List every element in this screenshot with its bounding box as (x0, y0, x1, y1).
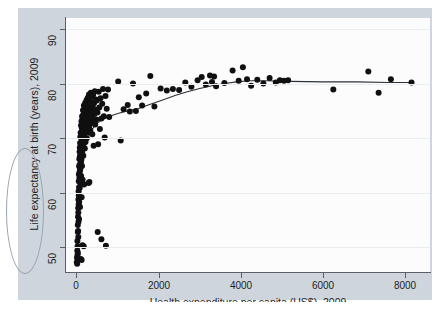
x-tick-label-0: 0 (51, 280, 101, 291)
y-tick-90 (60, 29, 65, 30)
scatter-point (211, 73, 217, 79)
scatter-point (267, 75, 273, 81)
scatter-point (104, 106, 110, 112)
x-tick-6000 (323, 273, 324, 278)
gridline-y-90 (66, 29, 430, 30)
scatter-point (170, 86, 176, 92)
x-tick-2000 (159, 273, 160, 278)
scatter-point (82, 146, 88, 152)
scatter-point (376, 90, 382, 96)
scatter-point (89, 131, 95, 137)
scatter-point (77, 204, 83, 210)
scatter-point (133, 108, 139, 114)
scatter-point (236, 78, 242, 84)
scatter-point (164, 88, 170, 94)
scatter-point (98, 236, 104, 242)
scatter-point (80, 153, 86, 159)
y-tick-label-60: 60 (47, 192, 58, 218)
scatter-point (86, 179, 92, 185)
scatter-point (176, 87, 182, 93)
y-tick-label-70: 70 (47, 137, 58, 163)
x-tick-label-6000: 6000 (298, 280, 348, 291)
x-tick-0 (76, 273, 77, 278)
y-tick-label-50: 50 (47, 246, 58, 272)
y-axis-label: Life expectancy at birth (years), 2009 (28, 14, 40, 274)
scatter-point (75, 228, 81, 234)
scatter-point (143, 90, 149, 96)
y-tick-70 (60, 138, 65, 139)
scatter-point (78, 256, 84, 262)
scatter-point (221, 80, 227, 86)
plot-area (66, 18, 430, 272)
gridline-y-50 (66, 247, 430, 248)
gridline-y-60 (66, 193, 430, 194)
bottom-white-margin (0, 302, 446, 324)
gridline-y-70 (66, 138, 430, 139)
x-tick-4000 (241, 273, 242, 278)
scatter-point (147, 73, 153, 79)
scatter-point (103, 93, 109, 99)
scatter-points (74, 64, 415, 267)
x-axis-line (65, 272, 431, 273)
scatter-point (125, 102, 131, 108)
scatter-point (75, 234, 81, 240)
y-tick-50 (60, 247, 65, 248)
scatter-point (105, 87, 111, 93)
scatter-point (106, 114, 112, 120)
x-tick-label-4000: 4000 (216, 280, 266, 291)
scatter-point (95, 229, 101, 235)
scatter-point (330, 87, 336, 93)
scatter-point (101, 113, 107, 119)
scatter-point (75, 250, 81, 256)
scatter-point (240, 64, 246, 70)
scatter-point (199, 74, 205, 80)
scatter-point (285, 77, 291, 83)
y-tick-label-80: 80 (47, 83, 58, 109)
scatter-point (79, 194, 85, 200)
gridline-y-80 (66, 84, 430, 85)
scatter-point (254, 77, 260, 83)
scatter-point (151, 104, 157, 110)
scatter-point (79, 163, 85, 169)
scatter-point (75, 210, 81, 216)
x-tick-8000 (405, 273, 406, 278)
scatter-point (365, 69, 371, 75)
y-tick-80 (60, 84, 65, 85)
scatter-point (139, 102, 145, 108)
y-tick-60 (60, 193, 65, 194)
figure-container: Life expectancy at birth (years), 2009 5… (0, 0, 446, 324)
y-tick-label-90: 90 (47, 28, 58, 54)
x-tick-label-2000: 2000 (134, 280, 184, 291)
scatter-point (230, 67, 236, 73)
scatter-point (244, 76, 250, 82)
scatter-point (76, 216, 82, 222)
scatter-point (99, 101, 105, 107)
scatter-point (158, 86, 164, 92)
x-tick-label-8000: 8000 (380, 280, 430, 291)
scatter-point (93, 117, 99, 123)
scatter-point (127, 108, 133, 114)
scatter-plot-canvas (66, 18, 430, 272)
scatter-point (388, 76, 394, 82)
scatter-point (91, 143, 97, 149)
scatter-point (136, 94, 142, 100)
scatter-point (97, 126, 103, 132)
